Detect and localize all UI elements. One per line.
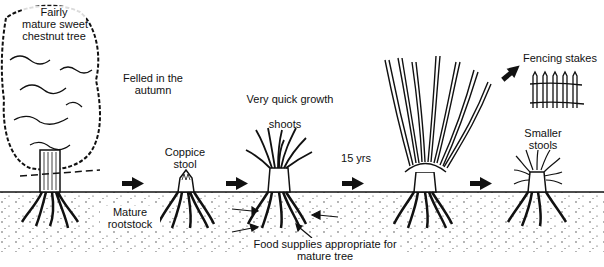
label-smaller-stools: Smaller stools — [518, 127, 568, 151]
arrow-2 — [226, 177, 248, 190]
label-coppice-stool: Coppice stool — [160, 146, 210, 170]
label-line: Fairly — [22, 6, 86, 18]
fencing-stakes — [530, 72, 584, 108]
label-fencing-stakes: Fencing stakes — [520, 52, 600, 64]
label-line: mature sweet — [22, 18, 86, 30]
arrow-3 — [342, 177, 364, 190]
label-line: Food supplies appropriate for — [250, 238, 400, 250]
label-very-quick-growth: Very quick growth — [240, 93, 340, 105]
arrow-4 — [470, 177, 492, 190]
label-line: Mature — [100, 206, 160, 218]
label-line: stool — [160, 158, 210, 170]
arrow-1 — [122, 177, 144, 190]
label-line: chestnut tree — [22, 30, 86, 42]
label-shoots: shoots — [265, 118, 305, 130]
label-line: rootstock — [100, 218, 160, 230]
label-mature-rootstock: Mature rootstock — [100, 206, 160, 230]
label-line: Felled in the — [118, 72, 188, 84]
label-line: stools — [518, 139, 568, 151]
label-felled: Felled in the autumn — [118, 72, 188, 96]
label-line: Smaller — [518, 127, 568, 139]
arrow-fencing — [499, 61, 524, 84]
label-food-supplies: Food supplies appropriate for mature tre… — [250, 238, 400, 262]
label-line: autumn — [118, 84, 188, 96]
label-mature-tree: Fairly mature sweet chestnut tree — [22, 6, 86, 42]
coppicing-diagram — [0, 0, 604, 267]
label-15-yrs: 15 yrs — [336, 152, 376, 164]
label-line: mature tree — [250, 250, 400, 262]
label-line: Coppice — [160, 146, 210, 158]
